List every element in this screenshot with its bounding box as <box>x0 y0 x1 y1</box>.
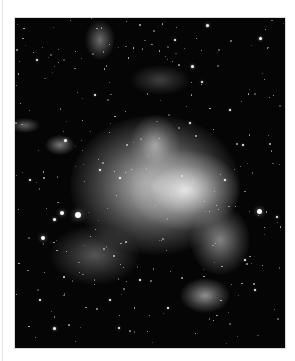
faint-star <box>258 215 259 216</box>
faint-star <box>126 144 128 146</box>
faint-star <box>269 143 271 145</box>
faint-star <box>120 264 121 265</box>
faint-star <box>152 44 153 45</box>
faint-star <box>140 138 142 140</box>
faint-star <box>178 127 180 129</box>
faint-star <box>249 256 250 257</box>
bright-star <box>189 122 191 124</box>
bright-star <box>259 37 262 40</box>
faint-star <box>240 166 241 167</box>
faint-star <box>155 205 156 206</box>
faint-star <box>83 164 84 165</box>
faint-star <box>94 279 95 280</box>
faint-star <box>196 38 197 39</box>
faint-star <box>77 92 78 93</box>
faint-star <box>253 283 255 285</box>
bright-star <box>276 216 278 218</box>
faint-star <box>191 94 192 95</box>
faint-star <box>125 111 126 112</box>
faint-star <box>279 105 281 107</box>
faint-star <box>80 327 81 328</box>
faint-star <box>175 53 176 54</box>
galaxy-photo <box>15 18 285 348</box>
faint-star <box>74 68 75 69</box>
faint-star <box>168 114 170 116</box>
faint-star <box>184 48 185 49</box>
faint-star <box>195 135 197 137</box>
bright-star <box>53 218 56 221</box>
faint-star <box>126 281 127 282</box>
faint-star <box>170 271 171 272</box>
faint-star <box>54 66 55 67</box>
faint-star <box>267 47 268 48</box>
faint-star <box>81 140 82 141</box>
faint-star <box>148 156 149 157</box>
bright-star <box>244 259 246 261</box>
bright-star <box>41 236 45 240</box>
faint-star <box>81 58 82 59</box>
bright-star <box>64 139 67 142</box>
faint-star <box>153 268 154 269</box>
faint-star <box>56 240 57 241</box>
faint-star <box>221 266 222 267</box>
faint-star <box>203 269 204 270</box>
faint-star <box>249 211 250 212</box>
faint-star <box>209 318 210 319</box>
bright-star <box>36 59 38 61</box>
faint-star <box>167 46 169 48</box>
faint-star <box>98 220 99 221</box>
faint-star <box>107 208 108 209</box>
faint-star <box>271 20 272 21</box>
faint-star <box>75 166 76 167</box>
faint-star <box>63 295 64 296</box>
faint-star <box>109 82 110 83</box>
faint-star <box>150 280 152 282</box>
faint-star <box>104 68 105 69</box>
page-edge-line <box>2 0 3 361</box>
bright-star <box>201 81 203 83</box>
faint-star <box>110 94 111 95</box>
faint-star <box>123 267 124 268</box>
faint-star <box>16 175 17 176</box>
faint-star <box>118 47 119 48</box>
faint-star <box>106 246 107 247</box>
bright-star <box>60 211 64 215</box>
faint-star <box>280 226 281 227</box>
bright-star <box>206 24 209 27</box>
faint-star <box>178 64 180 66</box>
faint-star <box>103 248 105 250</box>
faint-star <box>283 23 284 24</box>
faint-star <box>171 194 172 195</box>
faint-star <box>139 24 141 26</box>
faint-star <box>262 265 263 266</box>
faint-star <box>119 315 120 316</box>
faint-star <box>18 73 19 74</box>
faint-star <box>63 59 65 61</box>
faint-star <box>43 243 44 244</box>
faint-star <box>218 209 219 210</box>
faint-star <box>201 84 202 85</box>
faint-star <box>203 276 204 277</box>
faint-star <box>118 278 119 279</box>
faint-star <box>181 175 183 177</box>
faint-star <box>22 172 23 173</box>
faint-star <box>44 272 45 273</box>
galaxy-glow <box>45 135 75 155</box>
faint-star <box>195 333 196 334</box>
faint-star <box>191 188 192 189</box>
faint-star <box>209 108 210 109</box>
faint-star <box>181 197 182 198</box>
faint-star <box>113 255 115 257</box>
faint-star <box>43 171 44 172</box>
faint-star <box>172 61 173 62</box>
faint-star <box>149 315 150 316</box>
faint-star <box>269 97 270 98</box>
faint-star <box>37 289 39 291</box>
faint-star <box>246 263 248 265</box>
faint-star <box>16 85 17 86</box>
faint-star <box>159 50 160 51</box>
faint-star <box>176 27 177 28</box>
faint-star <box>217 65 219 67</box>
faint-star <box>75 51 76 52</box>
faint-star <box>191 82 192 83</box>
